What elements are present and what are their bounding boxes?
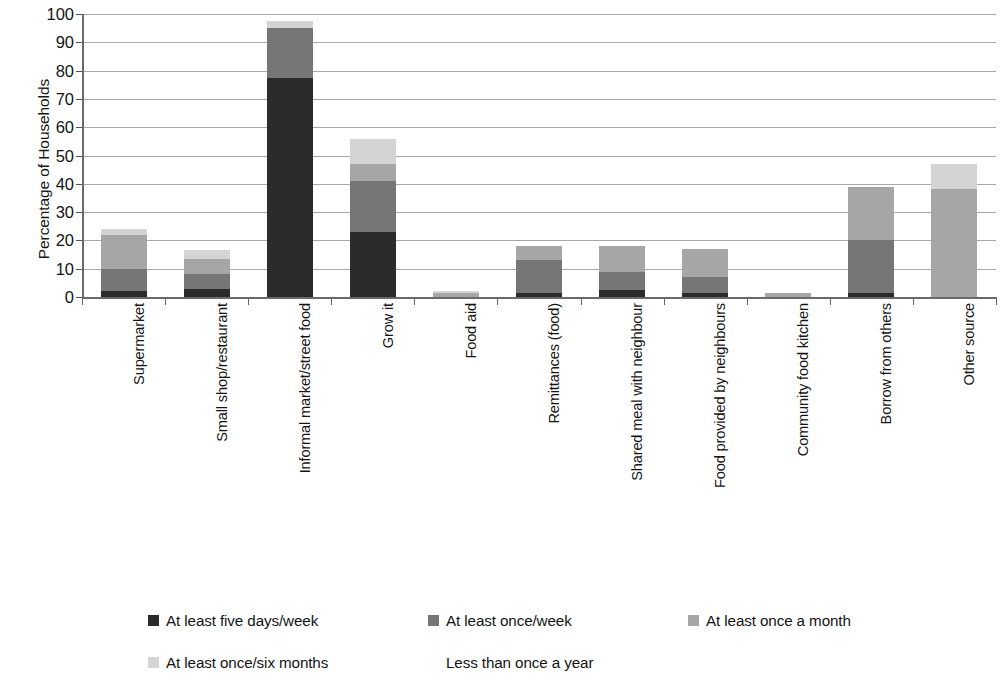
bar-segment — [350, 164, 396, 181]
bar-segment — [682, 293, 728, 297]
x-axis-category-labels: SupermarketSmall shop/restaurantInformal… — [82, 303, 996, 578]
y-tick-label: 60 — [12, 119, 74, 136]
x-axis-label: Remittances (food) — [546, 303, 562, 424]
bar-segment — [350, 232, 396, 297]
chart-legend: At least five days/weekAt least once/wee… — [148, 612, 1008, 682]
bar-stack — [931, 164, 977, 297]
bar-segment — [267, 78, 313, 297]
bar-segment — [931, 164, 977, 189]
legend-item[interactable]: Less than once a year — [428, 654, 593, 671]
bar-segment — [682, 249, 728, 277]
bar-column[interactable] — [848, 14, 894, 297]
legend-label: Less than once a year — [446, 654, 593, 671]
bar-segment — [350, 181, 396, 232]
bar-stack — [765, 293, 811, 297]
x-axis-label: Other source — [961, 303, 977, 386]
bar-segment — [516, 246, 562, 260]
bar-stack — [350, 139, 396, 297]
y-tick-label: 50 — [12, 148, 74, 165]
bar-stack — [184, 250, 230, 297]
x-tick-mark — [996, 297, 997, 305]
legend-label: At least once/six months — [166, 654, 328, 671]
x-axis-label: Supermarket — [131, 303, 147, 385]
bar-segment — [433, 293, 479, 297]
bar-segment — [184, 289, 230, 297]
x-axis-line — [82, 297, 996, 299]
legend-item[interactable]: At least once/week — [428, 612, 572, 629]
bar-segment — [184, 274, 230, 288]
x-axis-label: Food aid — [463, 303, 479, 359]
y-tick-label: 30 — [12, 204, 74, 221]
y-tick-label: 70 — [12, 91, 74, 108]
bar-column[interactable] — [516, 14, 562, 297]
legend-item[interactable]: At least once/six months — [148, 654, 328, 671]
legend-item[interactable]: At least five days/week — [148, 612, 318, 629]
bar-segment — [599, 290, 645, 297]
bar-stack — [848, 187, 894, 297]
bar-segment — [101, 269, 147, 292]
chart-root: Percentage of Households 010203040506070… — [0, 0, 1008, 684]
legend-item[interactable]: At least once a month — [688, 612, 851, 629]
bar-segment — [184, 250, 230, 258]
legend-label: At least five days/week — [166, 612, 318, 629]
x-axis-label: Community food kitchen — [795, 303, 811, 456]
bar-segment — [267, 28, 313, 78]
bar-segment — [101, 235, 147, 269]
x-axis-label: Borrow from others — [878, 303, 894, 424]
y-tick-label: 10 — [12, 261, 74, 278]
x-axis-label: Grow it — [380, 303, 396, 348]
bar-column[interactable] — [931, 14, 977, 297]
y-tick-label: 0 — [12, 289, 74, 306]
legend-swatch — [428, 657, 439, 668]
bars-layer — [82, 14, 996, 297]
legend-label: At least once/week — [446, 612, 572, 629]
bar-column[interactable] — [350, 14, 396, 297]
bar-column[interactable] — [599, 14, 645, 297]
bar-segment — [848, 187, 894, 241]
bar-stack — [267, 21, 313, 297]
legend-label: At least once a month — [706, 612, 851, 629]
x-axis-label: Shared meal with neighbour — [629, 303, 645, 481]
bar-segment — [350, 139, 396, 164]
bar-segment — [599, 272, 645, 290]
bar-segment — [848, 240, 894, 292]
legend-swatch — [688, 615, 699, 626]
bar-column[interactable] — [184, 14, 230, 297]
bar-column[interactable] — [101, 14, 147, 297]
y-tick-label: 80 — [12, 63, 74, 80]
bar-segment — [516, 260, 562, 293]
legend-swatch — [428, 615, 439, 626]
bar-segment — [931, 189, 977, 297]
bar-column[interactable] — [765, 14, 811, 297]
bar-stack — [101, 229, 147, 297]
bar-segment — [848, 293, 894, 297]
bar-segment — [184, 259, 230, 275]
x-axis-label: Food provided by neighbours — [712, 303, 728, 488]
bar-column[interactable] — [267, 14, 313, 297]
y-tick-label: 90 — [12, 34, 74, 51]
bar-stack — [682, 249, 728, 297]
bar-stack — [516, 246, 562, 297]
bar-segment — [516, 293, 562, 297]
bar-column[interactable] — [682, 14, 728, 297]
legend-swatch — [148, 615, 159, 626]
bar-segment — [599, 246, 645, 271]
bar-stack — [433, 291, 479, 297]
bar-stack — [599, 246, 645, 297]
bar-column[interactable] — [433, 14, 479, 297]
y-tick-label: 100 — [12, 6, 74, 23]
y-tick-label: 20 — [12, 232, 74, 249]
x-axis-label: Small shop/restaurant — [214, 303, 230, 442]
plot-area: 0102030405060708090100 — [82, 14, 996, 297]
bar-segment — [267, 21, 313, 28]
legend-swatch — [148, 657, 159, 668]
bar-segment — [101, 291, 147, 297]
x-axis-label: Informal market/street food — [297, 303, 313, 473]
bar-segment — [765, 293, 811, 297]
bar-segment — [682, 277, 728, 293]
y-tick-label: 40 — [12, 176, 74, 193]
